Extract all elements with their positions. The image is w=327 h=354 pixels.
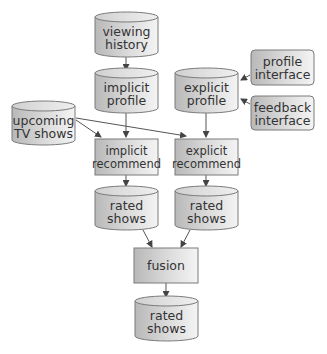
label-line: fusion (147, 259, 185, 272)
edge-rated-explicit-to-fusion (181, 230, 190, 247)
label-line: shows (187, 211, 226, 226)
label-line: history (105, 37, 148, 52)
label-explicit-recommend: explicitrecommend (175, 140, 238, 175)
label-implicit-recommend: implicitrecommend (95, 140, 158, 175)
label-line: shows (147, 321, 186, 336)
edge-upcoming-to-implicit-recommend (76, 120, 101, 137)
label-rated-shows-implicit: ratedshows (95, 196, 158, 228)
edge-feedback-interface-to-explicit-profile (241, 99, 250, 104)
label-line: interface (255, 67, 311, 82)
label-line: TV shows (14, 126, 73, 141)
edge-rated-implicit-to-fusion (143, 230, 152, 247)
label-line: profile (187, 93, 226, 108)
edge-profile-interface-to-explicit-profile (241, 75, 250, 80)
label-explicit-profile: explicitprofile (175, 78, 238, 110)
label-line: recommend (92, 157, 161, 171)
label-implicit-profile: implicitprofile (95, 78, 158, 110)
label-fusion: fusion (134, 248, 198, 283)
label-line: recommend (172, 157, 241, 171)
label-line: implicit (105, 144, 147, 158)
label-profile-interface: profileinterface (251, 51, 314, 85)
label-line: interface (255, 113, 311, 128)
label-line: explicit (186, 144, 227, 158)
label-feedback-interface: feedbackinterface (251, 97, 314, 130)
label-line: shows (107, 211, 146, 226)
label-viewing-history: viewinghistory (95, 22, 158, 54)
label-rated-shows-explicit: ratedshows (175, 196, 238, 228)
label-line: profile (107, 93, 146, 108)
label-rated-shows-final: ratedshows (135, 306, 198, 338)
edge-upcoming-to-explicit-recommend (76, 118, 186, 136)
label-upcoming-tv-shows: upcomingTV shows (12, 111, 75, 143)
